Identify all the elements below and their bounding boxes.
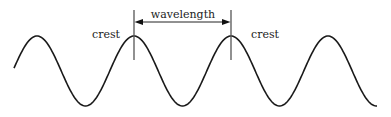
wavelength-label: wavelength <box>151 8 215 21</box>
crest-label-left: crest <box>92 28 121 41</box>
crest-label-right: crest <box>251 28 280 41</box>
wave-diagram: wavelength crest crest <box>0 0 391 117</box>
wave-svg: wavelength crest crest <box>0 0 391 117</box>
arrowhead-left-icon <box>135 19 144 25</box>
arrowhead-right-icon <box>222 19 231 25</box>
sine-wave <box>14 36 377 106</box>
